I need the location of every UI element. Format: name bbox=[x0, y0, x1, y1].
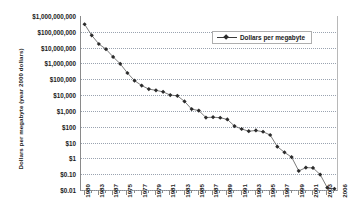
x-tick-label: 1979 bbox=[155, 184, 162, 206]
x-tick-label: 1993 bbox=[255, 184, 262, 206]
x-tick-label: 1991 bbox=[241, 184, 248, 206]
y-tick-label: $10,000,000 bbox=[41, 44, 76, 51]
x-tick bbox=[233, 190, 234, 193]
y-tick-label: $1 bbox=[69, 155, 76, 162]
data-point bbox=[147, 87, 151, 91]
x-tick bbox=[305, 190, 306, 193]
x-tick bbox=[219, 190, 220, 193]
y-tick-label: $10,000 bbox=[53, 92, 76, 99]
y-tick-label: $10 bbox=[65, 139, 76, 146]
y-tick-label: $100,000,000 bbox=[37, 28, 76, 35]
x-tick bbox=[291, 190, 292, 193]
x-tick-label: 1983 bbox=[98, 184, 105, 206]
x-tick-label: 1983 bbox=[184, 184, 191, 206]
x-tick-label: 1999 bbox=[298, 184, 305, 206]
data-point bbox=[240, 127, 244, 131]
chart-legend: Dollars per megabyte bbox=[212, 31, 312, 44]
data-point bbox=[247, 129, 251, 133]
x-tick bbox=[276, 190, 277, 193]
data-point bbox=[161, 90, 165, 94]
x-tick-label: 1985 bbox=[198, 184, 205, 206]
legend-marker-icon bbox=[217, 34, 237, 41]
y-tick-label: $0.10 bbox=[60, 171, 76, 178]
data-point bbox=[254, 128, 258, 132]
data-point bbox=[297, 169, 301, 173]
x-tick-label: 2001 bbox=[312, 184, 319, 206]
x-tick-label: 1995 bbox=[269, 184, 276, 206]
cost-per-megabyte-chart: Dollars per megabyte (year 2000 dollars)… bbox=[0, 0, 361, 218]
x-axis-tick-labels: 1980198319871975197719791981198319851987… bbox=[80, 195, 337, 218]
x-tick-label: 1980 bbox=[84, 184, 91, 206]
data-point bbox=[211, 115, 215, 119]
x-tick-label: 2003 bbox=[326, 184, 333, 206]
data-point bbox=[289, 155, 293, 159]
legend-label: Dollars per megabyte bbox=[240, 34, 305, 41]
x-tick bbox=[134, 190, 135, 193]
y-tick-label: $1,000,000,000 bbox=[32, 13, 76, 20]
x-tick bbox=[176, 190, 177, 193]
y-axis-tick-labels: $1,000,000,000$100,000,000$10,000,000$1,… bbox=[14, 14, 78, 190]
series-markers bbox=[82, 22, 336, 191]
x-tick-label: 1997 bbox=[283, 184, 290, 206]
data-point bbox=[168, 93, 172, 97]
y-tick-label: $100 bbox=[62, 123, 76, 130]
series-line bbox=[85, 24, 335, 188]
x-tick-label: 1987 bbox=[212, 184, 219, 206]
data-point bbox=[268, 133, 272, 137]
data-point bbox=[304, 166, 308, 170]
data-point bbox=[261, 130, 265, 134]
x-tick-label: 1987 bbox=[112, 184, 119, 206]
x-tick bbox=[333, 190, 334, 193]
x-tick bbox=[162, 190, 163, 193]
x-tick bbox=[319, 190, 320, 193]
x-tick-label: 1981 bbox=[169, 184, 176, 206]
x-tick bbox=[262, 190, 263, 193]
y-tick-label: $100,000 bbox=[50, 76, 76, 83]
y-tick-label: $1,000,000 bbox=[44, 60, 76, 67]
x-tick-label: 2006 bbox=[341, 184, 348, 206]
x-tick-label: 1989 bbox=[226, 184, 233, 206]
x-tick-label: 1977 bbox=[141, 184, 148, 206]
data-point bbox=[82, 22, 86, 26]
x-tick bbox=[205, 190, 206, 193]
x-tick-label: 1975 bbox=[126, 184, 133, 206]
y-tick-label: $0.01 bbox=[60, 187, 76, 194]
data-point bbox=[154, 88, 158, 92]
data-point bbox=[218, 116, 222, 120]
y-tick-label: $1,000 bbox=[57, 107, 76, 114]
x-tick bbox=[105, 190, 106, 193]
x-tick bbox=[119, 190, 120, 193]
